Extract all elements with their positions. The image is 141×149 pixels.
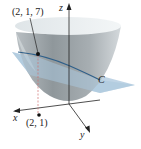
label-point-2d: (2, 1)	[26, 118, 48, 128]
label-curve-c: C	[98, 75, 105, 85]
z-axis-arrow	[67, 3, 72, 10]
point-2-1-7	[36, 52, 40, 56]
y-axis	[69, 104, 88, 130]
paraboloid-diagram: (2, 1, 7) (2, 1) C z x y	[0, 0, 141, 149]
x-axis	[15, 104, 69, 111]
diagram-graphic	[0, 0, 141, 149]
label-z-axis: z	[59, 3, 63, 13]
label-point-3d: (2, 1, 7)	[12, 7, 44, 17]
label-y-axis: y	[80, 130, 84, 140]
label-x-axis: x	[13, 113, 17, 123]
paraboloid-rim	[15, 17, 121, 35]
